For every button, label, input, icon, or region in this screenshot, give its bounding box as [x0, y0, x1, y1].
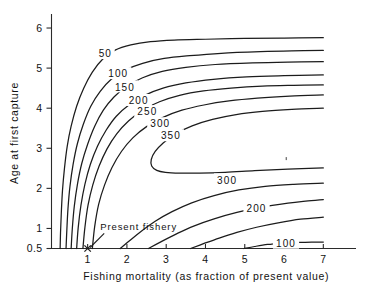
contour-label-250-4: 250 — [137, 106, 157, 117]
x-axis-title: Fishing mortality (as fraction of presen… — [83, 270, 329, 282]
contour-plot-svg: 1234567 0.5123456 5010015020025030035030… — [0, 0, 374, 288]
x-tick-label-2: 2 — [124, 253, 130, 265]
y-tick-label-0.5: 0.5 — [27, 242, 43, 254]
contour-line-100-upper — [66, 50, 323, 248]
contour-lines — [60, 38, 323, 249]
axes-group — [49, 14, 357, 249]
y-axis-title: Age at first capture — [8, 82, 20, 184]
contour-label-350-6: 350 — [161, 130, 181, 141]
contour-label-100-1: 100 — [108, 68, 128, 79]
y-tick-label-2: 2 — [36, 182, 42, 194]
contour-label-300-7: 300 — [217, 175, 237, 186]
x-tick-label-5: 5 — [242, 253, 248, 265]
y-tick-label-4: 4 — [36, 102, 42, 114]
y-tick-label-5: 5 — [36, 62, 42, 74]
contour-label-150-2: 150 — [115, 82, 135, 93]
annotation-text-0: Present fishery — [100, 221, 177, 232]
stray-marks — [286, 157, 287, 160]
y-tick-label-1: 1 — [36, 222, 42, 234]
x-tick-label-1: 1 — [85, 253, 91, 265]
contour-label-200-8: 200 — [247, 203, 267, 214]
contour-label-200-3: 200 — [129, 95, 149, 106]
x-axis-tick-labels: 1234567 — [85, 253, 327, 265]
y-axis-tick-labels: 0.5123456 — [27, 22, 43, 254]
scan-speck-0 — [286, 157, 287, 160]
y-axis-ticks — [47, 28, 52, 248]
contour-chart-figure: 1234567 0.5123456 5010015020025030035030… — [0, 0, 374, 288]
annotation-leader-line-0 — [90, 233, 104, 247]
plot-annotations: Present fishery — [84, 221, 177, 251]
y-tick-label-3: 3 — [36, 142, 42, 154]
contour-label-300-5: 300 — [150, 118, 170, 129]
y-tick-label-6: 6 — [36, 22, 42, 34]
x-tick-label-6: 6 — [281, 253, 287, 265]
x-tick-label-7: 7 — [320, 253, 326, 265]
contour-label-100-9: 100 — [276, 238, 296, 249]
x-tick-label-4: 4 — [202, 253, 208, 265]
contour-label-50-0: 50 — [99, 48, 112, 59]
x-tick-label-3: 3 — [163, 253, 169, 265]
contour-level-labels: 50100150200250300350300200100 — [96, 47, 299, 249]
contour-line-200-lower — [191, 217, 324, 248]
